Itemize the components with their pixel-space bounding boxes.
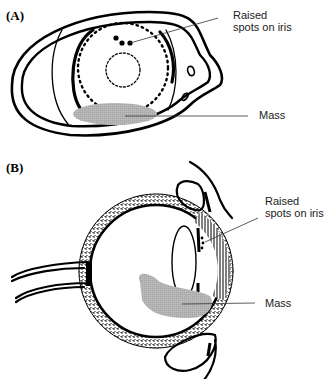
raised-spot: [202, 242, 205, 245]
eye-diagram-figure: (A) Raised spots on iris Mass (B): [0, 0, 327, 379]
iris-outer-arc: [73, 30, 93, 108]
annotation-mass: Mass: [265, 297, 292, 309]
iris-dotted-border: [78, 23, 168, 113]
panel-a: (A) Raised spots on iris Mass: [6, 8, 292, 135]
pupil-outline: [106, 53, 140, 87]
lower-eyelid-tarsus: [208, 343, 210, 356]
annotation-raised-spots-line1: Raised: [265, 195, 299, 207]
panel-a-label: (A): [6, 8, 24, 23]
cornea-edge: [52, 30, 68, 124]
mass-shape: [139, 274, 212, 318]
raised-spot: [201, 247, 204, 250]
iris-upper: [198, 228, 199, 252]
optic-disc: [86, 262, 92, 286]
raised-spot: [201, 237, 204, 240]
caruncle-upper: [188, 66, 195, 75]
raised-spot: [113, 35, 118, 40]
mass-shape: [73, 103, 157, 125]
annotation-raised-spots-line2: spots on iris: [265, 207, 324, 219]
annotation-raised-spots-line1: Raised: [233, 9, 267, 21]
annotation-raised-spots-line2: spots on iris: [233, 21, 292, 33]
optic-nerve: [12, 262, 88, 302]
upper-eyelid-tarsus: [205, 192, 210, 212]
annotation-mass: Mass: [259, 109, 286, 121]
panel-b: (B) Raised spots on iris Mass: [6, 160, 324, 379]
raised-spot: [119, 40, 124, 45]
panel-b-label: (B): [6, 160, 23, 175]
